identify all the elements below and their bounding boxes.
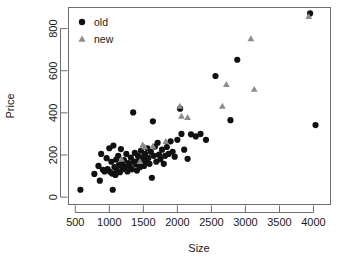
data-point-triangle [184,114,191,120]
data-point-circle [145,155,151,161]
data-point-triangle [223,81,230,87]
data-point-circle [227,117,233,123]
data-point-circle [181,147,187,153]
x-axis-title: Size [188,242,209,254]
legend-label-new: new [94,33,114,45]
x-tick-label: 1000 [97,216,121,228]
data-point-circle [98,151,104,157]
data-point-circle [174,137,180,143]
data-point-circle [149,175,155,181]
legend-marker-triangle [78,35,85,41]
x-tick-label: 2000 [165,216,189,228]
data-point-circle [150,118,156,124]
data-point-triangle [176,103,183,109]
data-point-circle [118,146,124,152]
data-point-circle [146,161,152,167]
x-tick-label: 3000 [233,216,257,228]
series-new [118,13,312,164]
x-tick-label: 1500 [131,216,155,228]
data-point-circle [91,171,97,177]
data-point-triangle [251,86,258,92]
data-point-circle [161,161,167,167]
data-point-circle [212,73,218,79]
data-point-triangle [178,113,185,119]
x-tick-label: 4000 [301,216,325,228]
x-tick-label: 3500 [267,216,291,228]
data-point-circle [203,137,209,143]
y-tick-label: 200 [47,146,59,164]
data-point-triangle [248,35,255,41]
y-axis-title: Price [4,93,16,118]
data-point-triangle [219,103,226,109]
chart-legend: oldnew [78,16,113,45]
data-point-circle [77,187,83,193]
data-point-circle [312,122,318,128]
data-point-circle [172,154,178,160]
x-tick-label: 2500 [199,216,223,228]
data-point-circle [178,131,184,137]
data-point-circle [130,109,136,115]
series-old [77,10,318,193]
data-point-circle [97,178,103,184]
data-point-circle [234,57,240,63]
x-axis: 5001000150020002500300035004000 [66,206,326,229]
data-point-circle [110,187,116,193]
y-tick-label: 400 [47,104,59,122]
data-point-circle [155,140,161,146]
x-tick-label: 500 [66,216,84,228]
data-point-circle [184,156,190,162]
legend-marker-circle [79,19,85,25]
data-series-layer [77,10,318,193]
scatter-plot-figure: 0200400600800 50010001500200025003000350… [0,0,349,261]
y-axis: 0200400600800 [47,19,68,200]
data-point-circle [164,144,170,150]
data-point-circle [197,131,203,137]
y-tick-label: 800 [47,19,59,37]
legend-label-old: old [94,16,108,28]
chart-canvas: 0200400600800 50010001500200025003000350… [0,0,349,261]
data-point-circle [115,153,121,159]
y-tick-label: 0 [47,194,59,200]
data-point-circle [110,142,116,148]
y-tick-label: 600 [47,62,59,80]
